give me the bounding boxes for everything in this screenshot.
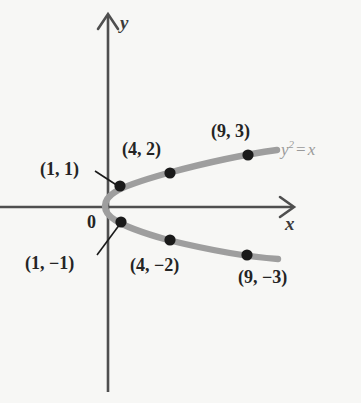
data-point-9-3 [242, 149, 253, 160]
point-label-9-minus3: (9, −3) [238, 268, 287, 286]
leader-line-p11 [95, 171, 118, 186]
curve-equation-label: y2=x [281, 141, 315, 158]
data-point-1-1 [114, 180, 125, 191]
equation-relation: = [294, 140, 308, 159]
point-label-4-2: (4, 2) [122, 140, 161, 158]
equation-lhs: y [281, 140, 289, 159]
coordinate-plane-svg [0, 0, 361, 403]
data-point-4-minus2 [164, 234, 175, 245]
equation-rhs: x [308, 140, 316, 159]
point-label-9-3: (9, 3) [211, 122, 250, 140]
parabola-figure: y x 0 (1, 1) (4, 2) (9, 3) (1, −1) (4, −… [0, 0, 361, 403]
point-label-4-minus2: (4, −2) [130, 256, 179, 274]
point-label-1-1: (1, 1) [40, 160, 79, 178]
data-point-1-minus1 [115, 216, 126, 227]
y-axis-label: y [120, 13, 128, 32]
origin-label: 0 [87, 213, 96, 231]
point-label-1-minus1: (1, −1) [25, 254, 74, 272]
data-point-9-minus3 [241, 249, 252, 260]
data-point-4-2 [164, 167, 175, 178]
x-axis-label: x [285, 214, 295, 233]
parabola-curve [105, 150, 278, 259]
